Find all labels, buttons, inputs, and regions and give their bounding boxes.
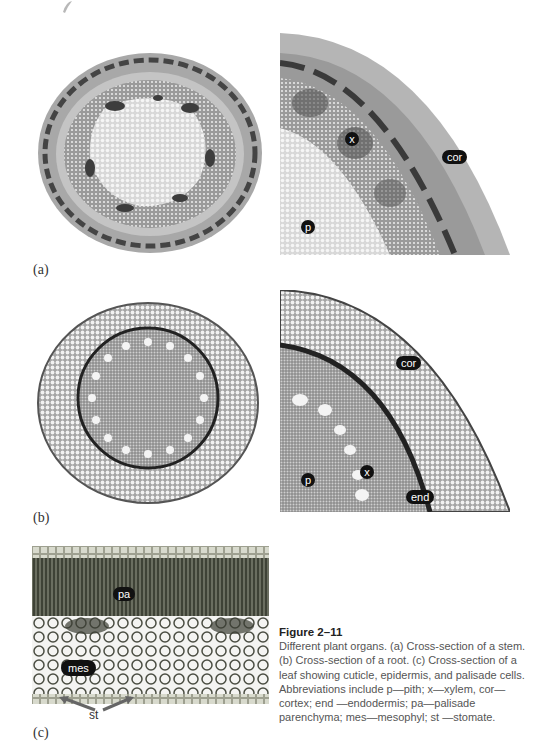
caption-text: Different plant organs. (a) Cross-sectio… (279, 639, 529, 725)
xylem-tag: x (360, 465, 374, 479)
stem-cross-section-image (30, 48, 265, 258)
stem-detail-image (280, 33, 510, 255)
figure-caption: Figure 2–11 Different plant organs. (a) … (279, 626, 529, 725)
panel-label-b: (b) (33, 510, 49, 526)
figure-number: Figure 2–11 (279, 626, 529, 638)
xylem-tag: x (345, 132, 359, 146)
decorative-leaf-mark (60, 0, 74, 14)
cortex-tag: cor (396, 356, 421, 370)
cortex-tag: cor (442, 150, 467, 164)
panel-label-a: (a) (33, 262, 49, 278)
pith-tag: p (301, 220, 315, 234)
root-cross-section-image (30, 300, 265, 510)
mesophyll-tag: mes (61, 660, 96, 676)
pith-tag: p (301, 473, 315, 487)
leaf-cross-section-image (32, 546, 269, 704)
palisade-tag: pa (113, 587, 135, 601)
stomate-label: st (89, 708, 98, 722)
endodermis-tag: end (406, 490, 434, 504)
panel-label-c: (c) (33, 725, 49, 741)
